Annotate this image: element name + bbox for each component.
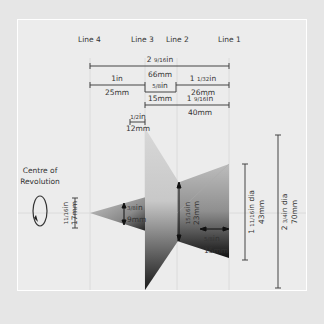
centre-label-1: Centre of bbox=[23, 166, 58, 175]
l3-l1-in: 1 9/16in bbox=[187, 94, 214, 103]
label-line-1: Line 1 bbox=[218, 35, 241, 44]
l3-l2-in: 5/8in bbox=[152, 81, 168, 90]
middle-shape bbox=[145, 128, 178, 290]
neck-label: 15/16in 23mm bbox=[183, 201, 201, 225]
small-dia-label: 11/16in 17mm bbox=[61, 201, 79, 225]
label-line-4: Line 4 bbox=[78, 35, 101, 44]
turning-diagram: Line 4 Line 3 Line 2 Line 1 2 bbox=[0, 0, 324, 324]
l2-l1-in: 1 1/32in bbox=[190, 74, 217, 83]
svg-text:11/16in: 11/16in bbox=[61, 201, 70, 224]
svg-text:1 11/16in dia: 1 11/16in dia bbox=[247, 190, 256, 234]
overall-mm: 66mm bbox=[148, 70, 172, 79]
label-line-3: Line 3 bbox=[131, 35, 154, 44]
label-line-2: Line 2 bbox=[166, 35, 189, 44]
offset-in: 1/2in bbox=[130, 112, 146, 121]
overall-in: 2 9/16in bbox=[147, 55, 174, 64]
offset-mm: 12mm bbox=[126, 124, 150, 133]
l3-l1-mm: 40mm bbox=[188, 108, 212, 117]
svg-text:15/16in: 15/16in bbox=[183, 201, 192, 224]
centre-label-2: Revolution bbox=[20, 177, 60, 186]
gap-mm: 9mm bbox=[127, 215, 146, 224]
svg-text:70mm: 70mm bbox=[290, 200, 299, 224]
gap-in: 3/8in bbox=[127, 203, 143, 212]
dimension-lines bbox=[72, 63, 281, 288]
l4-l3-in: 1in bbox=[111, 74, 123, 83]
rotation-arrow-icon bbox=[33, 196, 47, 226]
depth-mm: 15mm bbox=[204, 246, 228, 255]
l3-l2-mm: 15mm bbox=[148, 94, 172, 103]
l4-l3-mm: 25mm bbox=[105, 88, 129, 97]
svg-text:23mm: 23mm bbox=[192, 201, 201, 225]
overall-dia-label: 2 3/4in dia 70mm bbox=[280, 194, 299, 231]
svg-text:43mm: 43mm bbox=[257, 200, 266, 224]
svg-text:2 3/4in dia: 2 3/4in dia bbox=[280, 194, 289, 231]
depth-in: 5/8in bbox=[204, 234, 220, 243]
right-dia-label: 1 11/16in dia 43mm bbox=[247, 190, 266, 234]
svg-text:17mm: 17mm bbox=[70, 201, 79, 225]
